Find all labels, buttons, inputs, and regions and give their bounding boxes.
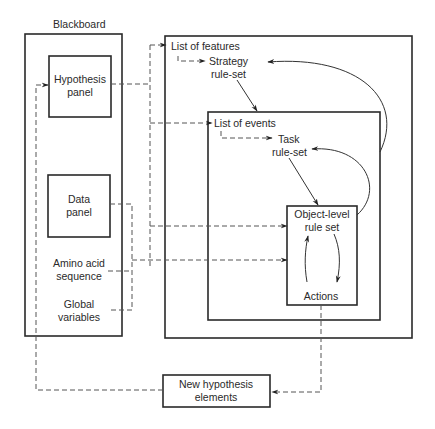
solid-arrows bbox=[237, 61, 387, 282]
global-vars-label-2: variables bbox=[58, 311, 100, 323]
hypothesis-panel-label-2: panel bbox=[67, 86, 93, 98]
new-hypothesis-label-2: elements bbox=[195, 391, 238, 403]
task-label-1: Task bbox=[278, 133, 300, 145]
outer-control-frame bbox=[165, 36, 412, 338]
blackboard-title: Blackboard bbox=[53, 18, 106, 30]
object-level-label-2: rule set bbox=[305, 221, 340, 233]
new-hypothesis-label-1: New hypothesis bbox=[179, 378, 253, 390]
blackboard-architecture-diagram: Blackboard Hypothesis panel Data panel A… bbox=[0, 0, 435, 429]
list-of-features-label: List of features bbox=[171, 40, 240, 52]
amino-acid-label-1: Amino acid bbox=[53, 257, 105, 269]
list-of-events-label: List of events bbox=[214, 117, 276, 129]
object-level-label-1: Object-level bbox=[294, 208, 349, 220]
strategy-label-2: rule-set bbox=[211, 68, 246, 80]
strategy-label-1: Strategy bbox=[209, 55, 249, 67]
actions-label: Actions bbox=[304, 290, 338, 302]
data-panel-label-1: Data bbox=[68, 193, 90, 205]
data-panel-label-2: panel bbox=[66, 206, 92, 218]
hypothesis-panel-label-1: Hypothesis bbox=[54, 73, 106, 85]
amino-acid-label-2: sequence bbox=[56, 270, 102, 282]
task-label-2: rule-set bbox=[272, 146, 307, 158]
global-vars-label-1: Global bbox=[64, 298, 94, 310]
